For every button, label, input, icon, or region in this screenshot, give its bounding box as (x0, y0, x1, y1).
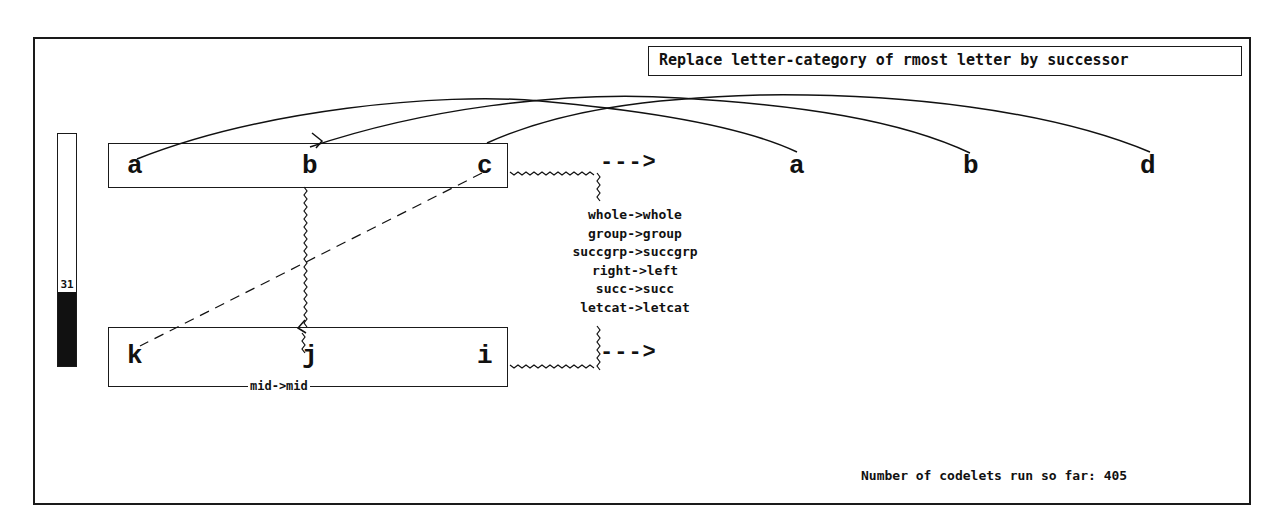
arc-c-to-d (487, 95, 1150, 152)
codelet-count-label: Number of codelets run so far: (861, 468, 1096, 483)
codelet-count-status: Number of codelets run so far: 405 (861, 468, 1127, 483)
group-correspondence-bottom (510, 326, 600, 370)
codelet-count-value: 405 (1104, 468, 1127, 483)
arc-a-to-a (137, 99, 797, 159)
group-correspondence-top (510, 172, 600, 201)
arc-b-to-b (310, 96, 970, 153)
connections-layer (0, 0, 1284, 528)
correspondence-b-j (302, 187, 307, 353)
correspondence-c-k (140, 173, 482, 346)
